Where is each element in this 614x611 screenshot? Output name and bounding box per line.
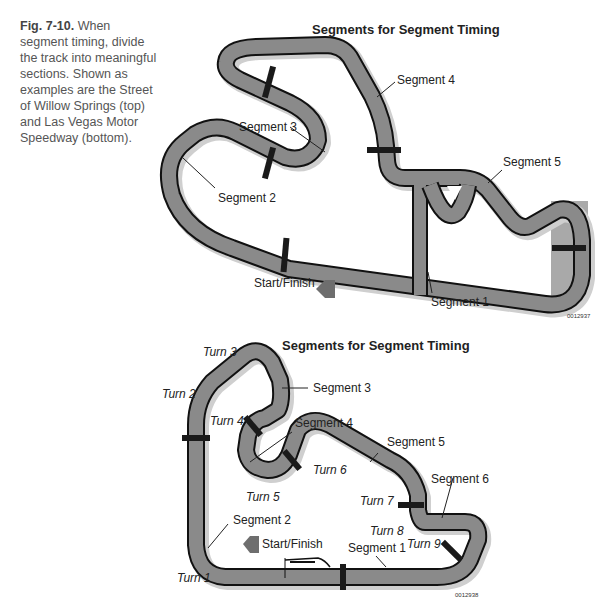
bottom-figure-code: 0012938 xyxy=(455,592,478,598)
top-label-segment-4: Segment 4 xyxy=(397,73,455,87)
top-label-segment-5: Segment 5 xyxy=(503,155,561,169)
bottom-label-segment-1: Segment 1 xyxy=(348,541,406,555)
bottom-label-start-finish: Start/Finish xyxy=(262,537,323,551)
bottom-label-segment-6: Segment 6 xyxy=(431,472,489,486)
bottom-label-segment-2: Segment 2 xyxy=(233,513,291,527)
bottom-label-turn-9: Turn 9 xyxy=(407,537,441,551)
top-label-start-finish: Start/Finish xyxy=(254,276,315,290)
bottom-label-turn-1: Turn 1 xyxy=(177,571,211,585)
bottom-label-turn-2: Turn 2 xyxy=(162,387,196,401)
bottom-label-turn-8: Turn 8 xyxy=(370,524,404,538)
bottom-diagram-title: Segments for Segment Timing xyxy=(282,338,470,353)
bottom-label-segment-5: Segment 5 xyxy=(387,435,445,449)
top-diagram-title: Segments for Segment Timing xyxy=(312,22,500,37)
bottom-label-turn-4: Turn 4 xyxy=(210,414,244,428)
bottom-label-turn-3: Turn 3 xyxy=(203,345,237,359)
top-label-segment-3: Segment 3 xyxy=(239,120,297,134)
top-figure-code: 0012937 xyxy=(567,313,590,319)
top-track xyxy=(169,45,585,307)
bottom-label-turn-7: Turn 7 xyxy=(360,494,394,508)
top-label-segment-2: Segment 2 xyxy=(218,191,276,205)
bottom-label-segment-3: Segment 3 xyxy=(313,381,371,395)
bottom-label-turn-5: Turn 5 xyxy=(246,490,280,504)
top-track-diagram xyxy=(0,0,614,611)
top-label-segment-1: Segment 1 xyxy=(431,295,489,309)
bottom-label-segment-4: Segment 4 xyxy=(295,416,353,430)
bottom-label-turn-6: Turn 6 xyxy=(313,463,347,477)
direction-arrow-bottom xyxy=(243,536,259,553)
